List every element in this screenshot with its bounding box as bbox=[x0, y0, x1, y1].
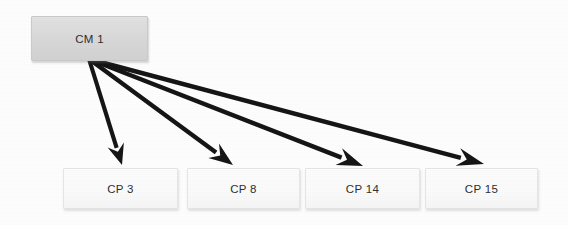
edge-cm1-cp14 bbox=[89, 59, 342, 158]
node-label: CP 14 bbox=[346, 183, 379, 195]
node-cp-3[interactable]: CP 3 bbox=[63, 168, 178, 209]
node-label: CP 3 bbox=[107, 183, 134, 195]
edge-cm1-cp8 bbox=[89, 59, 216, 153]
edge-cm1-cp15 bbox=[89, 59, 461, 158]
edge-cm1-cp3 bbox=[89, 59, 117, 148]
node-cp-8[interactable]: CP 8 bbox=[187, 168, 300, 209]
node-cp-15[interactable]: CP 15 bbox=[425, 168, 538, 209]
node-cm-1[interactable]: CM 1 bbox=[31, 16, 148, 61]
edge-cm1-cp3-arrowhead bbox=[108, 142, 124, 165]
node-label: CP 15 bbox=[465, 183, 498, 195]
edge-cm1-cp15-arrowhead bbox=[456, 148, 484, 165]
edge-cm1-cp8-arrowhead bbox=[208, 144, 233, 165]
node-label: CP 8 bbox=[230, 183, 257, 195]
node-cp-14[interactable]: CP 14 bbox=[305, 168, 420, 209]
diagram-canvas: CM 1 CP 3 CP 8 CP 14 CP 15 bbox=[0, 0, 568, 225]
edge-cm1-cp14-arrowhead bbox=[336, 148, 363, 166]
node-label: CM 1 bbox=[75, 33, 104, 45]
